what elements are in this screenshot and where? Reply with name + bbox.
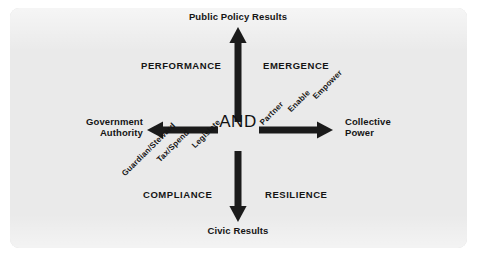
- quadrant-label-top-right: EMERGENCE: [263, 61, 329, 72]
- quadrant-label-top-left: PERFORMANCE: [141, 61, 221, 72]
- axis-label-bottom: Civic Results: [208, 226, 269, 237]
- axis-label-right-line2: Power: [345, 128, 391, 139]
- axis-label-left: Government Authority: [86, 117, 143, 138]
- quadrant-label-bottom-left: COMPLIANCE: [143, 190, 212, 201]
- center-conjunction-label: AND: [219, 112, 257, 131]
- axis-label-left-line2: Authority: [86, 128, 143, 139]
- diagram-root: Public Policy Results Civic Results Gove…: [0, 0, 477, 256]
- quadrant-label-bottom-right: RESILIENCE: [265, 190, 328, 201]
- axis-label-top: Public Policy Results: [189, 12, 287, 23]
- axis-label-right: Collective Power: [345, 117, 391, 138]
